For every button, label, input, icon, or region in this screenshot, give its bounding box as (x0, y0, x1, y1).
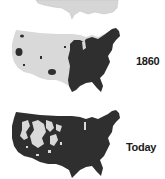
map-label-1860: 1860 (136, 55, 159, 67)
us-map-outline-top (0, 0, 130, 22)
map-today (0, 110, 132, 179)
us-map-today (0, 110, 132, 179)
map-label-today: Today (126, 141, 156, 153)
map-top-partial (0, 0, 130, 22)
map-1860 (0, 28, 132, 94)
us-map-1860 (0, 28, 132, 94)
